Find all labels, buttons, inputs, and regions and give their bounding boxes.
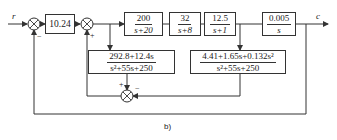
h2-denominator: s²+55s+250 [217, 63, 259, 73]
block-g3: 12.5s+1 [204, 12, 236, 36]
output-label-c: c [316, 12, 320, 21]
block-g1: 200s+20 [124, 12, 163, 36]
g2-numerator: 32 [178, 14, 191, 25]
g2-denominator: s+8 [178, 25, 192, 35]
figure-caption: b) [164, 123, 171, 131]
sum3-right-sign: − [135, 85, 140, 93]
block-gain: 10.24 [45, 14, 75, 34]
block-g2: 32s+8 [169, 12, 201, 36]
block-g4: 0.005s [262, 12, 296, 36]
g1-denominator: s+20 [134, 25, 153, 35]
block-gain-text: 10.24 [49, 19, 70, 29]
h1-denominator: s²+55s+250 [110, 63, 152, 73]
g1-numerator: 200 [135, 14, 153, 25]
g3-numerator: 12.5 [210, 14, 230, 25]
g4-denominator: s [277, 25, 281, 35]
input-label-r: r [12, 12, 16, 21]
h2-numerator: 4.41+1.65s+0.132s² [200, 52, 276, 63]
block-h1: 292.8+12.4ss²+55s+250 [88, 50, 175, 74]
sum3-left-sign: + [119, 81, 124, 89]
h1-numerator: 292.8+12.4s [107, 52, 156, 63]
g3-denominator: s+1 [213, 25, 227, 35]
g4-numerator: 0.005 [267, 14, 291, 25]
sum2-feedback-sign: + [90, 32, 95, 40]
block-h2: 4.41+1.65s+0.132s²s²+55s+250 [190, 50, 286, 74]
sum1-feedback-sign: − [37, 33, 42, 41]
